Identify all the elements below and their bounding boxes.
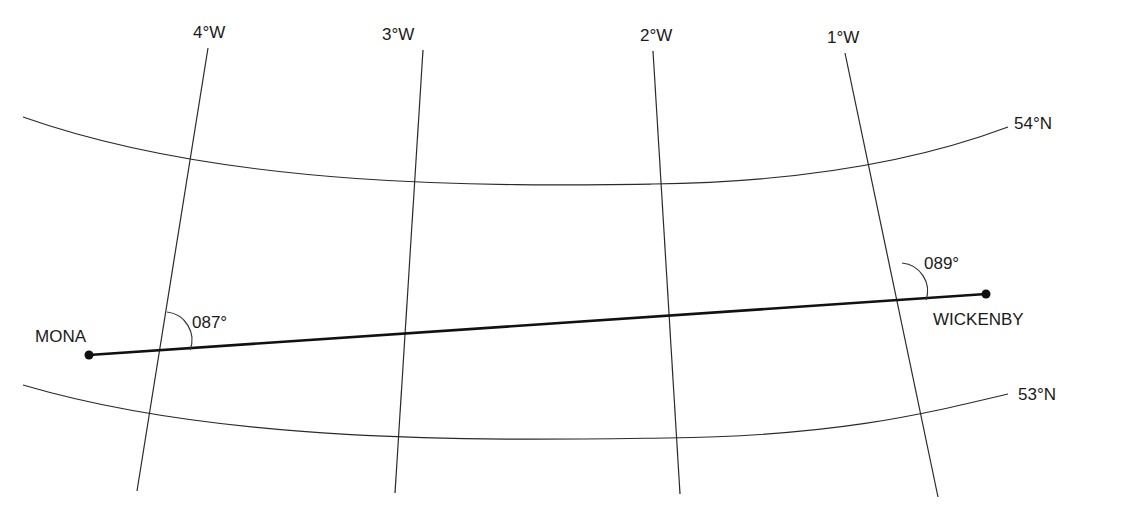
meridian-line: [137, 48, 208, 491]
parallel-lines: 54°N53°N: [23, 114, 1056, 439]
angle-arc-icon: [167, 312, 192, 350]
navigation-chart: 4°W3°W2°W1°W 54°N53°N 087°089° MONAWICKE…: [0, 0, 1127, 518]
meridian-line: [653, 51, 680, 494]
parallel-label: 54°N: [1014, 114, 1052, 133]
meridian-line: [845, 53, 938, 497]
meridian-lines: 4°W3°W2°W1°W: [137, 23, 938, 497]
meridian-line: [395, 50, 423, 493]
meridian-label: 4°W: [193, 23, 225, 42]
bearing-label: 087°: [192, 313, 227, 332]
parallel-label: 53°N: [1018, 385, 1056, 404]
bearing-label: 089°: [924, 254, 959, 273]
parallel-line: [23, 385, 1008, 439]
waypoint-dot-icon: [85, 351, 94, 360]
waypoint-dot-icon: [982, 290, 991, 299]
bearing-angles: 087°089°: [167, 254, 959, 350]
meridian-label: 1°W: [827, 28, 859, 47]
meridian-label: 2°W: [640, 26, 672, 45]
waypoint-label: MONA: [35, 327, 87, 346]
meridian-label: 3°W: [382, 25, 414, 44]
waypoint-label: WICKENBY: [933, 310, 1024, 329]
